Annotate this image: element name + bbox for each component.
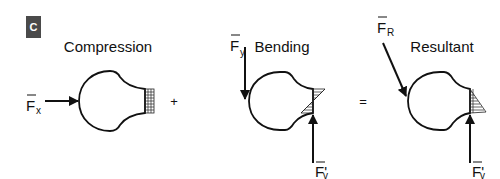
- force-label-fr: F R: [377, 17, 394, 38]
- panel-label-text: C: [30, 21, 38, 33]
- bending-title: Bending: [254, 38, 309, 55]
- force-label-fy: F y: [230, 35, 245, 58]
- resultant-diagram: Resultant F R F' v: [377, 17, 486, 179]
- bending-body-outline: [249, 72, 313, 130]
- compression-title: Compression: [64, 38, 152, 55]
- force-diagram: C Compression F x + Bending: [0, 0, 500, 179]
- bending-diagram: Bending F y F' v: [230, 35, 328, 179]
- force-label-fv-resultant: F' v: [472, 162, 485, 179]
- svg-text:F: F: [377, 19, 386, 36]
- svg-text:y: y: [240, 47, 245, 58]
- compression-diagram: Compression F x: [26, 38, 154, 131]
- uniform-stress-distribution: [145, 89, 154, 113]
- bending-stress-distribution: [301, 89, 325, 113]
- plus-operator: +: [170, 94, 178, 109]
- svg-text:R: R: [387, 27, 394, 38]
- svg-text:F: F: [26, 97, 35, 114]
- svg-text:v: v: [323, 170, 328, 179]
- force-label-fx: F x: [26, 95, 41, 116]
- svg-text:F: F: [230, 37, 239, 54]
- svg-text:x: x: [36, 105, 41, 116]
- resultant-stress-distribution: [470, 89, 486, 113]
- resultant-title: Resultant: [410, 38, 474, 55]
- force-label-fv: F' v: [315, 162, 328, 179]
- compression-body-outline: [79, 71, 145, 131]
- equals-operator: =: [359, 94, 367, 109]
- panel-label: C: [26, 16, 41, 38]
- resultant-body-outline: [408, 72, 470, 130]
- svg-text:v: v: [480, 170, 485, 179]
- force-arrow-fr: [383, 43, 406, 96]
